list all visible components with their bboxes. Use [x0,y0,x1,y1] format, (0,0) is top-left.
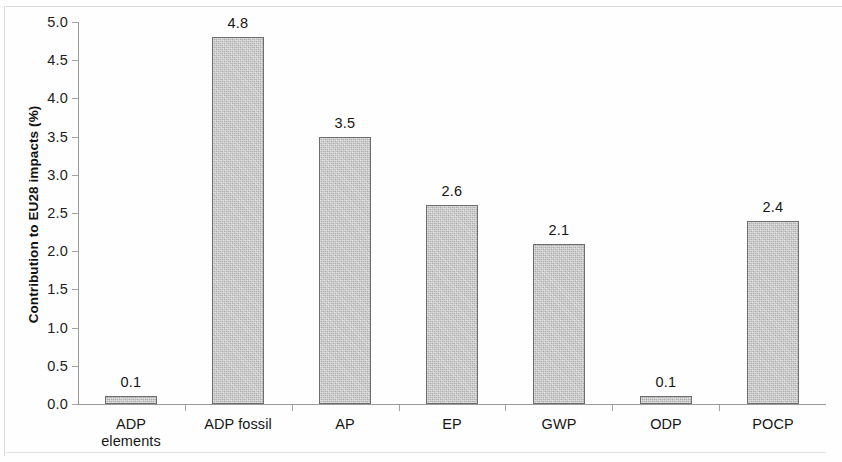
x-axis-category-label-line: EP [392,416,512,433]
y-axis-line [78,22,79,405]
bar [533,244,585,404]
x-axis-separator-tick [505,405,506,411]
bar-chart-figure: Contribution to EU28 impacts (%) 5.04.54… [0,0,842,462]
x-axis-category-label-line: POCP [713,416,833,433]
x-axis-category-label: AP [285,416,405,433]
y-axis-tick-label-row: 0.5 [0,359,78,374]
bar-value-label: 2.4 [733,200,813,215]
x-axis-category-label-line: ADP [71,416,191,433]
x-axis-separator-tick [399,405,400,411]
x-axis-separator-tick [719,405,720,411]
bar-value-label: 3.5 [305,116,385,131]
bar [212,37,264,404]
y-axis-tick-label: 4.0 [34,91,78,106]
x-axis-separator-tick [612,405,613,411]
y-axis-tick-label: 5.0 [34,15,78,30]
bar-value-label: 0.1 [626,375,706,390]
y-axis-tick-label: 3.5 [34,130,78,145]
y-axis-tick-label: 0.0 [34,397,78,412]
x-axis-category-label: EP [392,416,512,433]
x-axis-category-label: ADP fossil [178,416,298,433]
bar-value-label: 2.1 [519,223,599,238]
x-axis-category-label-line: ADP fossil [178,416,298,433]
bar-value-label: 4.8 [198,16,278,31]
bar-value-label: 0.1 [91,375,171,390]
x-axis-line [78,404,826,405]
y-axis-tick-label-row: 4.0 [0,91,78,106]
y-axis-tick-label: 1.0 [34,321,78,336]
bar [105,396,157,404]
y-axis-tick-label: 3.0 [34,168,78,183]
bar-value-label: 2.6 [412,184,492,199]
bar [747,221,799,404]
x-axis-category-label-line: AP [285,416,405,433]
x-axis-category-label: ADPelements [71,416,191,450]
y-axis-tick-label-row: 4.5 [0,53,78,68]
y-axis-tick-label-row: 2.0 [0,244,78,259]
scan-artifact-top-line [6,6,842,7]
y-axis-tick-label-row: 3.0 [0,168,78,183]
y-axis-tick-label-row: 0.0 [0,397,78,412]
y-axis-tick-label: 1.5 [34,282,78,297]
x-axis-category-label-line: GWP [499,416,619,433]
bar [319,137,371,404]
y-axis-tick-label-row: 1.5 [0,282,78,297]
scan-artifact-bottom-line [6,452,826,453]
x-axis-category-label: POCP [713,416,833,433]
y-axis-tick-label-row: 1.0 [0,321,78,336]
y-axis-tick-label: 2.5 [34,206,78,221]
x-axis-separator-tick [292,405,293,411]
y-axis-tick-label: 0.5 [34,359,78,374]
x-axis-category-label-line: ODP [606,416,726,433]
x-axis-category-label: GWP [499,416,619,433]
scan-artifact-left-line [4,6,5,456]
bar [426,205,478,404]
x-axis-category-label: ODP [606,416,726,433]
y-axis-tick-label-row: 5.0 [0,15,78,30]
y-axis-tick-label-row: 2.5 [0,206,78,221]
y-axis-tick-label: 2.0 [34,244,78,259]
x-axis-category-label-line: elements [71,433,191,450]
y-axis-tick-label-row: 3.5 [0,130,78,145]
x-axis-separator-tick [185,405,186,411]
bar [640,396,692,404]
y-axis-tick-label: 4.5 [34,53,78,68]
